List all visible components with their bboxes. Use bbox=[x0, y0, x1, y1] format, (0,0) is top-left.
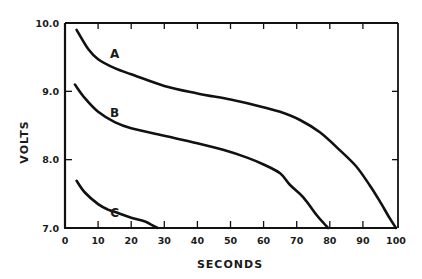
y-axis-title: VOLTS bbox=[18, 120, 31, 163]
voltage-chart: 0102030405060708090100 7.08.09.010.0 ABC… bbox=[0, 0, 422, 279]
x-tick-label: 100 bbox=[386, 235, 406, 246]
x-tick-label: 20 bbox=[125, 235, 139, 246]
x-tick-label: 30 bbox=[158, 235, 172, 246]
y-tick-label: 8.0 bbox=[42, 154, 59, 165]
curve-label-b: B bbox=[110, 106, 119, 120]
x-tick-label: 60 bbox=[257, 235, 271, 246]
curves bbox=[75, 30, 396, 228]
x-tick-label: 40 bbox=[191, 235, 205, 246]
x-tick-label: 50 bbox=[224, 235, 238, 246]
x-tick-label: 10 bbox=[91, 235, 105, 246]
y-tick-label: 9.0 bbox=[42, 86, 59, 97]
y-tick-label: 7.0 bbox=[42, 223, 59, 234]
x-tick-label: 90 bbox=[356, 235, 370, 246]
x-tick-labels: 0102030405060708090100 bbox=[62, 235, 407, 246]
x-tick-label: 0 bbox=[62, 235, 69, 246]
y-tick-label: 10.0 bbox=[36, 18, 60, 29]
x-tick-label: 80 bbox=[323, 235, 337, 246]
x-tick-label: 70 bbox=[290, 235, 304, 246]
x-axis-title: SECONDS bbox=[197, 258, 263, 271]
curve-label-c: C bbox=[110, 206, 119, 220]
curve-a bbox=[77, 30, 396, 228]
curve-labels: ABC bbox=[110, 47, 120, 220]
curve-c bbox=[77, 181, 158, 228]
y-tick-labels: 7.08.09.010.0 bbox=[36, 18, 60, 234]
curve-label-a: A bbox=[110, 47, 120, 61]
